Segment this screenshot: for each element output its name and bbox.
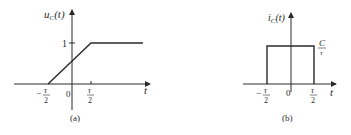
y-label-a: uC(t) [44,8,65,22]
caption-a: (a) [70,113,80,123]
x-label-b: t [330,86,334,98]
level-label-b: C τ [318,38,326,57]
svg-text:τ: τ [311,86,315,95]
svg-text:τ: τ [88,86,92,95]
level-one-label: 1 [62,38,67,49]
svg-text:C: C [319,38,326,48]
svg-text:−: − [36,88,41,98]
tick-label-zero-b: 0 [286,88,291,98]
caption-b: (b) [282,113,293,123]
svg-text:2: 2 [264,96,268,105]
plot-b: iC(t) C τ t − τ 2 0 τ 2 (b) [243,12,336,123]
svg-text:2: 2 [44,96,48,105]
tick-label-pos-half-b: τ 2 [310,86,317,105]
svg-text:2: 2 [311,96,315,105]
plot-a: uC(t) 1 t − τ 2 0 τ 2 (a) [14,8,150,123]
svg-text:−: − [256,88,261,98]
svg-text:τ: τ [44,86,48,95]
voltage-curve [48,43,143,84]
tick-label-zero-a: 0 [66,89,71,99]
svg-text:τ: τ [264,86,268,95]
tick-label-neg-half-b: − τ 2 [256,86,270,105]
tick-label-neg-half-a: − τ 2 [36,86,50,105]
figure-canvas: uC(t) 1 t − τ 2 0 τ 2 (a) iC(t) C τ t [0,0,351,135]
tick-label-pos-half-a: τ 2 [87,86,94,105]
svg-text:2: 2 [88,96,92,105]
x-label-a: t [144,84,148,96]
svg-text:τ: τ [320,49,323,57]
y-label-b: iC(t) [268,12,286,25]
